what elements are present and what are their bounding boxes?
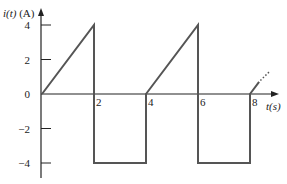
x-axis-arrow-icon [271,91,279,97]
x-tick-label: 8 [252,96,258,108]
x-axis-label: t(s) [266,100,281,113]
waveform-continuation-dots [260,72,269,81]
y-tick-label: −4 [18,157,30,169]
plot-area: 420−2−42468 [18,8,279,178]
y-axis-label-unit: (A) [16,7,34,20]
y-tick-label: 4 [25,19,31,31]
x-tick-label: 2 [96,96,102,108]
x-tick-label: 4 [148,96,154,108]
y-axis-arrow-icon [38,8,44,16]
y-tick-label: 0 [25,88,31,100]
y-tick-label: 2 [25,54,31,66]
x-tick-label: 6 [200,96,206,108]
y-axis-label-main: i(t) [3,7,17,20]
y-tick-label: −2 [18,123,30,135]
waveform-chart: 420−2−42468 i(t) (A) t(s) [0,0,287,184]
y-axis-label: i(t) (A) [3,7,35,20]
